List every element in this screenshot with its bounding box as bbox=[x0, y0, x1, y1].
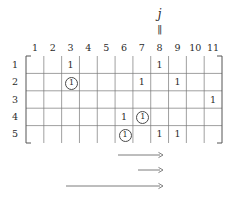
arrow-3 bbox=[66, 183, 163, 188]
figure-canvas: j ‖ 1234567891011 12345 11111111111 bbox=[0, 0, 250, 203]
arrow-group bbox=[66, 152, 163, 188]
entry-value: 1 bbox=[137, 112, 148, 121]
matrix-entry-r1c8: 1 bbox=[152, 60, 168, 70]
matrix-entry-r5c8: 1 bbox=[152, 129, 168, 139]
matrix-entry-r1c3: 1 bbox=[63, 60, 79, 70]
matrix-entry-r2c7: 1 bbox=[134, 77, 150, 87]
arrow-2 bbox=[138, 167, 163, 172]
matrix-entry-r3c11: 1 bbox=[205, 95, 221, 105]
matrix-entry-r2c9: 1 bbox=[169, 77, 185, 87]
matrix-entry-r5c6: 1 bbox=[119, 129, 132, 142]
entry-value: 1 bbox=[66, 78, 77, 87]
matrix-entry-r4c6: 1 bbox=[116, 112, 132, 122]
arrow-1 bbox=[118, 152, 163, 157]
entry-value: 1 bbox=[120, 130, 131, 139]
matrix-entry-r2c3: 1 bbox=[65, 77, 78, 90]
matrix-entry-r5c9: 1 bbox=[169, 129, 185, 139]
